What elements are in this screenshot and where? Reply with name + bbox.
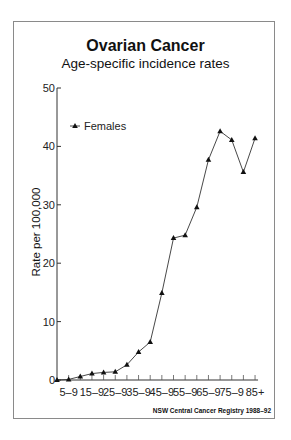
triangle-marker xyxy=(206,157,212,162)
x-tick-label: 5–9 xyxy=(59,386,77,398)
legend-triangle-icon xyxy=(72,123,78,128)
triangle-marker xyxy=(252,135,258,140)
x-tick-label: 35–9 xyxy=(126,386,150,398)
triangle-marker xyxy=(217,128,223,133)
triangle-marker xyxy=(194,204,200,209)
x-tick-label: 75–9 xyxy=(220,386,244,398)
y-tick-label: 20 xyxy=(43,257,55,269)
x-tick-label: 25–9 xyxy=(103,386,127,398)
triangle-marker xyxy=(229,137,235,142)
triangle-marker xyxy=(159,290,165,295)
axes: 010203040505–915–925–935–945–955–965–975… xyxy=(43,82,265,398)
x-tick-label: 55–9 xyxy=(173,386,197,398)
plot-area: 010203040505–915–925–935–945–955–965–975… xyxy=(0,0,291,440)
x-tick-label: 85+ xyxy=(246,386,265,398)
triangle-marker xyxy=(182,232,188,237)
triangle-marker xyxy=(147,339,153,344)
triangle-marker xyxy=(112,369,118,374)
y-tick-label: 30 xyxy=(43,199,55,211)
y-tick-label: 50 xyxy=(43,82,55,94)
triangle-marker xyxy=(241,169,247,174)
legend: Females xyxy=(70,120,127,132)
y-tick-label: 0 xyxy=(49,374,55,386)
y-tick-label: 40 xyxy=(43,140,55,152)
x-tick-label: 45–9 xyxy=(150,386,174,398)
x-tick-label: 65–9 xyxy=(196,386,220,398)
data-series-females xyxy=(54,128,258,382)
legend-label: Females xyxy=(84,120,127,132)
y-tick-label: 10 xyxy=(43,316,55,328)
x-tick-label: 15–9 xyxy=(80,386,104,398)
